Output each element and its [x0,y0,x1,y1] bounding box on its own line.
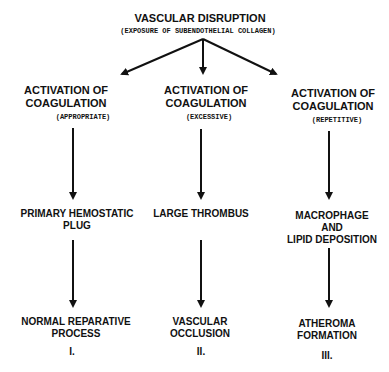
intermediate-line-2: PLUG [21,220,134,232]
branch-3-numeral: III. [321,350,332,362]
outcome-line-2: FORMATION [297,330,357,342]
branch-2-activation: ACTIVATION OF COAGULATION [164,84,248,110]
activation-line-1: ACTIVATION OF [164,84,248,97]
outcome-line-1: ATHEROMA [297,318,357,330]
branch-1-intermediate: PRIMARY HEMOSTATIC PLUG [21,208,134,232]
branch-2-qualifier: (EXCESSIVE) [186,113,232,122]
activation-line-2: COAGULATION [164,97,248,110]
intermediate-line-1: PRIMARY HEMOSTATIC [21,208,134,220]
outcome-line-2: PROCESS [21,328,130,340]
branch-3-outcome: ATHEROMA FORMATION [297,318,357,342]
intermediate-line-2: AND [287,222,377,234]
arrow-to-branch-1 [122,39,203,74]
arrow-to-branch-3 [203,39,276,74]
branch-1-activation: ACTIVATION OF COAGULATION [24,84,108,110]
intermediate-line-3: LIPID DEPOSITION [287,234,377,246]
branch-3-intermediate: MACROPHAGE AND LIPID DEPOSITION [287,210,377,246]
branch-2-numeral: II. [197,346,205,358]
intermediate-line-1: LARGE THROMBUS [153,208,249,220]
branch-1-qualifier: (APPROPRIATE) [56,113,111,122]
intermediate-line-1: MACROPHAGE [287,210,377,222]
branch-2-outcome: VASCULAR OCCLUSION [170,316,230,340]
activation-line-1: ACTIVATION OF [24,84,108,97]
activation-line-2: COAGULATION [24,97,108,110]
root-title: VASCULAR DISRUPTION [134,12,265,25]
branch-3-activation: ACTIVATION OF COAGULATION [291,87,375,113]
outcome-line-1: NORMAL REPARATIVE [21,316,130,328]
outcome-line-1: VASCULAR [170,316,230,328]
activation-line-2: COAGULATION [291,100,375,113]
root-subtitle: (EXPOSURE OF SUBENDOTHELIAL COLLAGEN) [120,27,275,36]
branch-3-qualifier: (REPETITIVE) [312,116,362,125]
branch-1-outcome: NORMAL REPARATIVE PROCESS [21,316,130,340]
activation-line-1: ACTIVATION OF [291,87,375,100]
outcome-line-2: OCCLUSION [170,328,230,340]
branch-2-intermediate: LARGE THROMBUS [153,208,249,220]
branch-1-numeral: I. [69,346,75,358]
